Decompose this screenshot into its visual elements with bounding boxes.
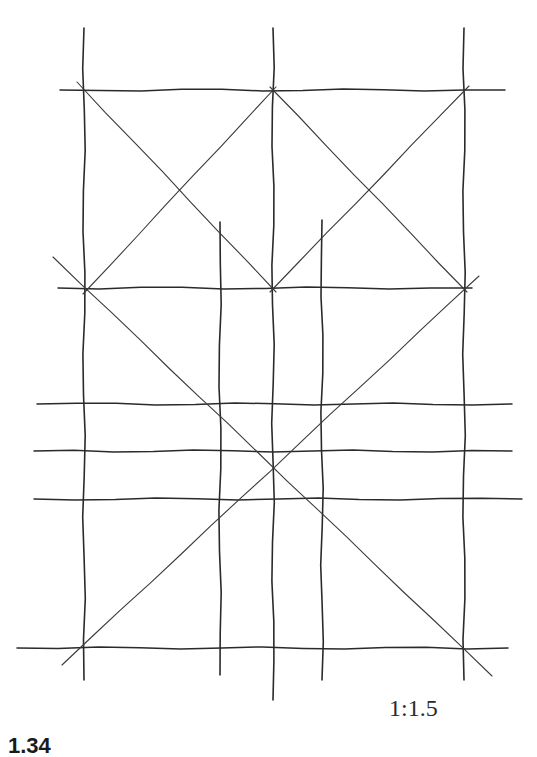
horizontal-line	[58, 287, 472, 289]
horizontal-lines	[17, 89, 522, 649]
horizontal-line	[60, 89, 505, 91]
vertical-line	[463, 28, 466, 680]
diagonal-line	[77, 82, 276, 292]
vertical-line	[219, 222, 221, 675]
horizontal-line	[37, 403, 512, 405]
diagonal-line	[83, 87, 276, 294]
ratio-label: 1:1.5	[389, 695, 438, 722]
vertical-lines	[83, 28, 466, 700]
horizontal-line	[34, 498, 522, 500]
horizontal-line	[17, 647, 508, 649]
vertical-line	[272, 28, 275, 700]
vertical-line	[83, 28, 86, 680]
figure-number: 1.34	[8, 733, 51, 757]
diagonal-line	[62, 276, 479, 665]
